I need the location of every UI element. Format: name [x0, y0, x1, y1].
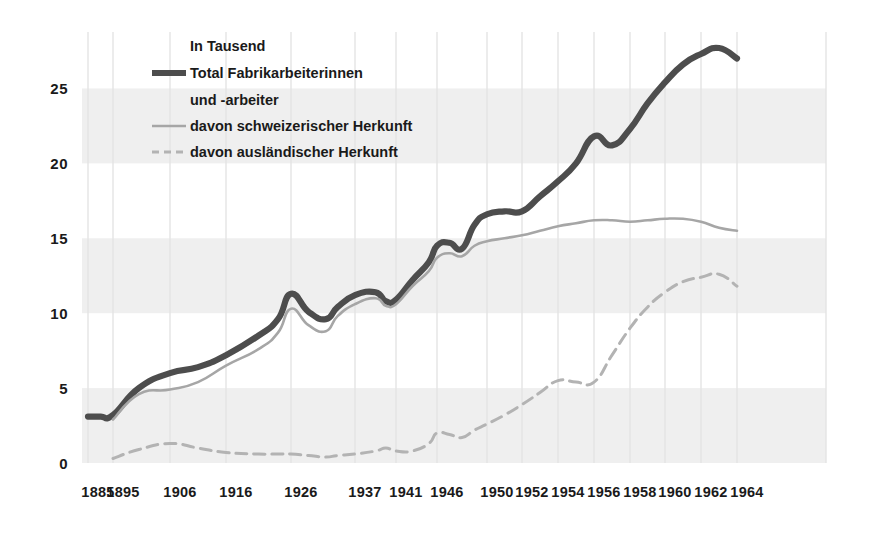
x-axis-tick-label: 1941	[389, 484, 422, 500]
y-axis-tick-label: 25	[50, 80, 68, 97]
line-chart-canvas: 0510152025 18851895190619161926193719411…	[0, 0, 870, 533]
x-axis-tick-group: 1885189519061916192619371941194619501952…	[81, 484, 763, 500]
legend-label: In Tausend	[190, 38, 265, 54]
x-axis-tick-label: 1946	[430, 484, 463, 500]
x-axis-tick-label: 1962	[694, 484, 727, 500]
x-axis-tick-label: 1950	[480, 484, 513, 500]
legend-label: davon schweizerischer Herkunft	[190, 118, 413, 134]
chart-figure: 0510152025 18851895190619161926193719411…	[0, 0, 870, 533]
y-axis-tick-label: 10	[50, 305, 68, 322]
x-axis-tick-label: 1895	[106, 484, 139, 500]
y-axis-tick-label: 15	[50, 230, 68, 247]
y-band	[82, 388, 826, 463]
legend-label: davon ausländischer Herkunft	[190, 144, 398, 160]
x-axis-tick-label: 1958	[623, 484, 656, 500]
y-axis-tick-label: 0	[59, 455, 68, 472]
x-axis-tick-label: 1906	[163, 484, 196, 500]
x-axis-tick-label: 1937	[348, 484, 381, 500]
x-axis-tick-label: 1960	[658, 484, 691, 500]
x-axis-tick-label: 1964	[730, 484, 763, 500]
y-axis-tick-group: 0510152025	[50, 80, 68, 472]
x-axis-tick-label: 1926	[284, 484, 317, 500]
y-axis-tick-label: 5	[59, 380, 68, 397]
x-axis-tick-label: 1952	[515, 484, 548, 500]
x-axis-tick-label: 1954	[551, 484, 584, 500]
x-axis-tick-label: 1956	[587, 484, 620, 500]
legend-label: Total Fabrikarbeiterinnen	[190, 65, 363, 81]
x-axis-tick-label: 1916	[219, 484, 252, 500]
y-axis-tick-label: 20	[50, 155, 68, 172]
legend-label: und -arbeiter	[190, 92, 279, 108]
